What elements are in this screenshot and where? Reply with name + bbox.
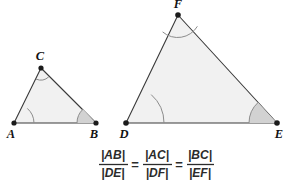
vertex-dot-a bbox=[11, 120, 16, 125]
vertex-label-c: C bbox=[36, 49, 45, 63]
fraction-1-denominator: |DE| bbox=[101, 166, 124, 180]
fraction-1-numerator: |AB| bbox=[101, 148, 125, 162]
vertex-label-a: A bbox=[6, 127, 15, 141]
vertex-label-d: D bbox=[118, 127, 128, 141]
equals-sign-1: = bbox=[131, 157, 139, 172]
vertex-dot-c bbox=[38, 65, 43, 70]
equals-sign-2: = bbox=[175, 157, 183, 172]
vertex-dot-b bbox=[93, 120, 98, 125]
fraction-bc-ef: |BC| |EF| bbox=[187, 148, 214, 180]
fraction-ab-de: |AB| |DE| bbox=[99, 148, 128, 180]
proportion-formula: |AB| |DE| = |AC| |DF| = |BC| |EF| bbox=[99, 148, 214, 180]
fraction-3-numerator: |BC| bbox=[188, 148, 212, 162]
vertex-label-b: B bbox=[89, 127, 98, 141]
fraction-2-denominator: |DF| bbox=[146, 166, 169, 180]
vertex-label-f: F bbox=[173, 0, 183, 11]
vertex-label-e: E bbox=[274, 127, 283, 141]
vertex-dot-e bbox=[274, 120, 280, 126]
fraction-3-denominator: |EF| bbox=[189, 166, 211, 180]
fraction-2-numerator: |AC| bbox=[145, 148, 169, 162]
vertex-dot-d bbox=[123, 120, 129, 126]
fraction-ac-df: |AC| |DF| bbox=[143, 148, 172, 180]
vertex-dot-f bbox=[175, 12, 181, 18]
similar-triangles-diagram: A B C D E F |AB| |DE| = |AC| | bbox=[0, 0, 288, 194]
